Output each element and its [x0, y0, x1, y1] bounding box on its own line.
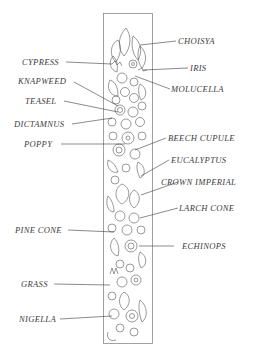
cone	[129, 213, 139, 223]
leader-grass	[54, 284, 110, 285]
label-cypress: CYPRESS	[22, 57, 59, 67]
cone	[115, 211, 125, 221]
label-grass: GRASS	[21, 279, 48, 289]
iris-petal	[138, 68, 147, 71]
leaf	[139, 300, 146, 322]
flower	[109, 132, 117, 140]
label-iris: IRIS	[190, 63, 206, 73]
teasel-head	[115, 105, 125, 115]
leader-iris	[143, 68, 188, 70]
label-dictamnus: DICTAMNUS	[14, 119, 64, 129]
flower	[108, 118, 116, 126]
column-frame	[104, 14, 153, 344]
illustration	[0, 0, 257, 346]
flower	[121, 119, 131, 129]
poppy-head	[122, 132, 134, 144]
label-teasel: TEASEL	[25, 96, 56, 106]
botanical-diagram: CHOISYA IRIS MOLUCELLA BEECH CUPULE EUCA…	[0, 0, 257, 346]
nigella-flower	[130, 314, 135, 319]
leader-teasel	[64, 101, 118, 112]
label-molucella: MOLUCELLA	[171, 84, 224, 94]
leaf	[119, 28, 130, 56]
label-beech-cupule: BEECH CUPULE	[168, 133, 235, 143]
flower	[137, 226, 145, 234]
leaf	[107, 332, 116, 341]
pod	[122, 164, 130, 172]
cupule	[138, 132, 146, 140]
label-pine-cone: PINE CONE	[15, 225, 62, 235]
leader-cypress	[66, 62, 112, 64]
flower	[117, 277, 127, 287]
leaf	[107, 196, 114, 212]
flower	[116, 260, 124, 268]
label-nigella: NIGELLA	[19, 314, 56, 324]
flower	[130, 149, 140, 159]
label-crown-imperial: CROWN IMPERIAL	[161, 177, 236, 187]
pine-cone	[111, 238, 119, 256]
label-choisya: CHOISYA	[178, 36, 215, 46]
leaf	[139, 84, 146, 100]
label-knapweed: KNAPWEED	[18, 76, 66, 86]
poppy-head	[126, 136, 130, 140]
leaf	[139, 252, 146, 268]
flower	[130, 78, 138, 86]
leader-dictamnus	[72, 118, 112, 124]
flower	[108, 292, 116, 300]
berry	[112, 96, 120, 104]
echinops-head	[125, 240, 137, 252]
nigella-flower	[126, 310, 138, 322]
flower	[128, 107, 138, 117]
leaf	[137, 162, 144, 178]
echinops-head	[128, 243, 134, 249]
leaf	[108, 160, 118, 172]
teasel-head	[118, 108, 123, 113]
label-eucalyptus: EUCALYPTUS	[171, 155, 226, 165]
flower	[131, 275, 141, 285]
label-poppy: POPPY	[24, 139, 52, 149]
leaf	[138, 46, 146, 68]
flower	[129, 60, 137, 68]
leader-eucalyptus	[141, 160, 169, 176]
leaf	[108, 80, 118, 96]
flower	[134, 278, 138, 282]
bell-flower	[130, 190, 140, 208]
flower	[136, 118, 145, 127]
label-echinops: ECHINOPS	[182, 241, 226, 251]
flower	[116, 147, 122, 153]
flower	[108, 224, 116, 232]
bell-flower	[120, 292, 130, 310]
leader-larch-cone	[140, 208, 178, 218]
bell-flower	[116, 184, 129, 204]
pod	[111, 176, 119, 184]
leader-pine-cone	[68, 230, 114, 232]
flower-column-art	[107, 28, 147, 341]
grass-blades	[110, 268, 118, 274]
label-larch-cone: LARCH CONE	[179, 203, 234, 213]
flower	[122, 225, 132, 235]
flower	[113, 144, 125, 156]
leader-beech-cupule	[135, 138, 166, 150]
flower	[132, 63, 135, 66]
flower	[126, 264, 134, 272]
leader-choisya	[140, 41, 176, 45]
flower	[117, 73, 127, 83]
flower	[116, 324, 124, 332]
berry	[130, 94, 139, 103]
nigella-flower	[109, 309, 119, 319]
leader-nigella	[60, 316, 112, 319]
berry	[121, 88, 130, 97]
flower	[130, 328, 138, 336]
flower	[138, 102, 146, 110]
